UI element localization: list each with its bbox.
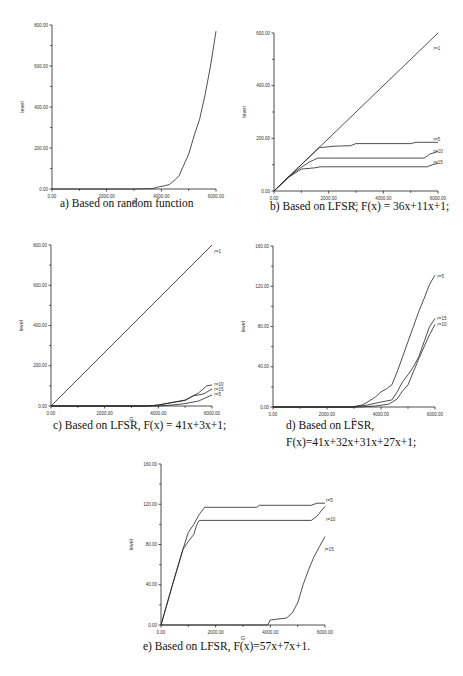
series-r-5 [51, 395, 212, 406]
y-tick-label: 40.00 [258, 364, 270, 369]
y-tick-label: 200.00 [33, 363, 47, 368]
y-tick-label: 800.00 [34, 23, 48, 28]
series-label: r=15 [325, 547, 335, 552]
series-r-1 [51, 245, 212, 406]
y-tick-label: 0.00 [38, 404, 47, 409]
series-label: r=15 [434, 160, 444, 165]
y-tick-label: 600.00 [34, 64, 48, 69]
chart-d: 0.002000.004000.006000.000.0040.0080.001… [240, 244, 447, 424]
series-r-10 [273, 325, 435, 408]
series-label: r=5 [214, 392, 221, 397]
series-r-15 [161, 537, 325, 626]
y-tick-label: 80.00 [258, 324, 270, 329]
y-axis-label: level [240, 321, 246, 332]
series-label: r=10 [326, 517, 336, 522]
x-tick-label: 2000.00 [97, 411, 114, 416]
x-tick-label: 4000.00 [150, 411, 167, 416]
series-r-5 [161, 503, 325, 625]
x-tick-label: 6000.00 [317, 630, 334, 635]
y-tick-label: 600.00 [33, 283, 47, 288]
y-axis-label: level [18, 320, 24, 331]
series-label: r=5 [434, 137, 441, 142]
y-tick-label: 160.00 [255, 244, 269, 249]
y-tick-label: 40.00 [146, 582, 158, 587]
x-tick-label: 0.00 [48, 194, 57, 199]
y-tick-label: 200.00 [34, 146, 48, 151]
x-tick-label: 2000.00 [319, 412, 336, 417]
x-tick-label: 0.00 [47, 411, 56, 416]
y-tick-label: 400.00 [34, 105, 48, 110]
x-tick-label: 6000.00 [427, 412, 444, 417]
series-label: r=1 [434, 46, 441, 51]
y-tick-label: 600.00 [256, 31, 270, 36]
series-line [52, 31, 216, 189]
series-label: r=15 [437, 316, 447, 321]
y-tick-label: 160.00 [143, 462, 157, 467]
y-tick-label: 800.00 [33, 243, 47, 248]
x-tick-label: 6000.00 [204, 411, 221, 416]
caption-a: a) Based on random function [60, 197, 194, 209]
x-tick-label: 4000.00 [262, 630, 279, 635]
x-tick-label: 4000.00 [373, 412, 390, 417]
caption-b: b) Based on LFSR, F(x) = 36x+11x+1; [270, 200, 449, 212]
y-axis-label: level [128, 539, 134, 550]
y-axis-label: level [19, 101, 25, 112]
plots-canvas: 0.002000.004000.006000.000.00200.00400.0… [0, 0, 463, 676]
series-label: r=5 [437, 274, 444, 279]
series-r-10 [161, 506, 325, 625]
caption-d-line2: F(x)=41x+32x+31x+27x+1; [286, 436, 416, 448]
y-tick-label: 0.00 [39, 187, 48, 192]
series-label: r=1 [214, 249, 221, 254]
series-label: r=5 [326, 498, 333, 503]
x-tick-label: 2000.00 [208, 630, 225, 635]
caption-c: c) Based on LFSR, F(x) = 41x+3x+1; [53, 419, 226, 431]
chart-e: 0.002000.004000.006000.000.0040.0080.001… [128, 462, 336, 642]
caption-e: e) Based on LFSR, F(x)=57x+7x+1. [143, 640, 310, 652]
series-r-15 [273, 318, 435, 407]
y-tick-label: 120.00 [255, 284, 269, 289]
series-r-5 [273, 275, 435, 407]
chart-b: 0.002000.004000.006000.000.00200.00400.0… [241, 31, 447, 208]
series-label: r=10 [437, 322, 447, 327]
y-tick-label: 0.00 [260, 405, 269, 410]
x-tick-label: 0.00 [157, 630, 166, 635]
y-tick-label: 0.00 [148, 623, 157, 628]
y-tick-label: 400.00 [256, 83, 270, 88]
series-label: r=10 [434, 149, 444, 154]
chart-a: 0.002000.004000.006000.000.00200.00400.0… [19, 23, 225, 206]
y-tick-label: 200.00 [256, 136, 270, 141]
y-tick-label: 80.00 [146, 542, 158, 547]
caption-d-line1: d) Based on LFSR, [286, 419, 374, 431]
x-tick-label: 0.00 [269, 412, 278, 417]
y-tick-label: 0.00 [261, 189, 270, 194]
chart-c: 0.002000.004000.006000.000.00200.00400.0… [18, 243, 224, 423]
y-tick-label: 120.00 [143, 502, 157, 507]
x-tick-label: 6000.00 [208, 194, 225, 199]
y-tick-label: 400.00 [33, 323, 47, 328]
y-axis-label: level [241, 106, 247, 117]
